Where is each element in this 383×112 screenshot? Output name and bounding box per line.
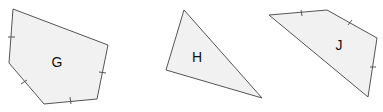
shape-j-polygon [269,10,377,97]
shape-j: J [269,10,377,97]
shape-g-label: G [52,54,63,70]
shape-h: H [166,10,262,98]
shape-j-label: J [336,37,343,53]
shape-h-polygon [166,10,262,98]
polygons-diagram: G H J [0,0,383,112]
shape-g: G [8,9,108,104]
shape-h-label: H [192,49,202,65]
